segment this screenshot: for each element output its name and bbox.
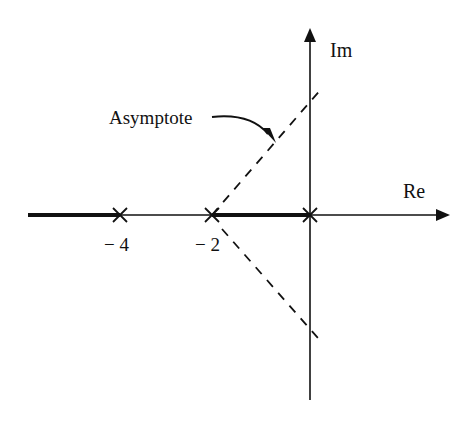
asymptote-annotation-label: Asymptote	[109, 107, 192, 128]
root-locus-diagram: − 4 − 2 Re Im Asymptote	[0, 0, 468, 427]
real-axis-arrow-icon	[436, 209, 450, 221]
asymptote-upper	[212, 88, 322, 215]
asymptote-pointer-arrowhead	[262, 128, 276, 143]
asymptote-lower	[222, 229, 318, 338]
pole-label-minus-2: − 2	[195, 234, 220, 255]
imaginary-axis-label: Im	[330, 39, 353, 61]
imaginary-axis-arrow-icon	[304, 28, 316, 42]
asymptote-pointer-arrow-icon	[212, 116, 268, 134]
pole-label-minus-4: − 4	[104, 234, 129, 255]
real-axis-label: Re	[403, 180, 425, 202]
